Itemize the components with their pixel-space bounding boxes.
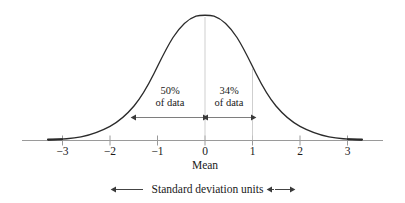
x-tick-label-neg3: −3 xyxy=(56,145,68,158)
x-tick-label-pos1: 1 xyxy=(250,145,256,158)
left-region-percent: 50% xyxy=(156,85,185,97)
x-tick-label-pos2: 2 xyxy=(297,145,303,158)
distribution-plot xyxy=(0,0,405,203)
x-tick-label-zero: 0 xyxy=(202,145,208,158)
x-tick-label-pos3: 3 xyxy=(345,145,351,158)
left-region-sublabel: of data xyxy=(156,97,185,109)
left-region-annotation: 50% of data xyxy=(156,85,185,109)
normal-distribution-figure: −3 −2 −1 0 1 2 3 50% of data 34% of data… xyxy=(0,0,405,203)
x-tick-label-neg2: −2 xyxy=(104,145,116,158)
right-region-percent: 34% xyxy=(215,85,244,97)
right-region-sublabel: of data xyxy=(215,97,244,109)
caption-standard-deviation-units: Standard deviation units xyxy=(149,183,267,196)
x-axis-title-mean: Mean xyxy=(192,159,218,172)
x-tick-label-neg1: −1 xyxy=(151,145,163,158)
right-region-annotation: 34% of data xyxy=(215,85,244,109)
